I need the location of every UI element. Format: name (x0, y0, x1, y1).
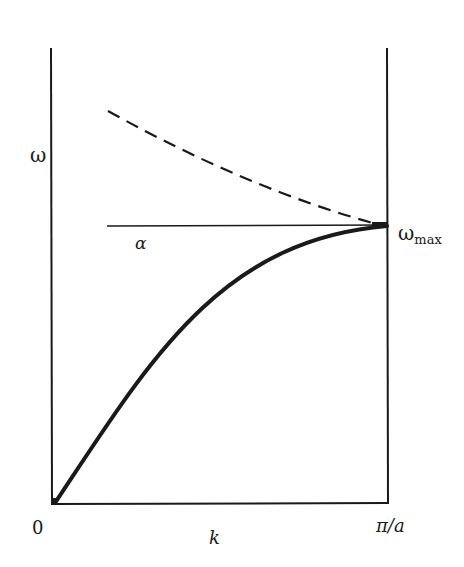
dashed-upper-branch (108, 111, 380, 225)
solid-acoustic-branch (55, 226, 387, 503)
left-axis (51, 48, 52, 504)
omega-max-symbol: ω (398, 221, 414, 245)
x-max-label: π/a (375, 515, 405, 536)
omega-max-label: ωmax (398, 221, 442, 247)
x-axis-label: k (209, 527, 220, 548)
origin-label: 0 (32, 517, 43, 538)
origin-mark (52, 498, 57, 504)
bottom-axis (51, 503, 388, 504)
right-axis (387, 48, 388, 504)
junction-mark (372, 222, 387, 228)
dispersion-diagram: ω α ωmax 0 k π/a (0, 0, 464, 567)
y-axis-label: ω (30, 143, 46, 167)
omega-max-subscript: max (414, 232, 442, 247)
omega-max-line (107, 225, 387, 226)
alpha-label: α (135, 233, 147, 253)
